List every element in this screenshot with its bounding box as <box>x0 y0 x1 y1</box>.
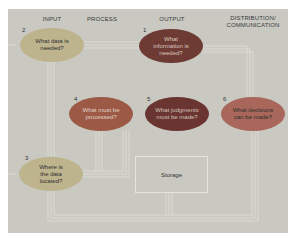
header-process: PROCESS <box>84 16 120 23</box>
node-what-data-needed: What data is needed? <box>20 28 84 62</box>
node-number-5: 5 <box>147 96 150 102</box>
header-distribution: DISTRIBUTION/ COMMUNICATION <box>218 15 288 29</box>
header-distribution-line2: COMMUNICATION <box>218 22 288 29</box>
header-input: INPUT <box>38 16 66 23</box>
node-number-2: 2 <box>22 27 25 33</box>
node-number-6: 6 <box>223 96 226 102</box>
node-what-judgments: What judgments must be made? <box>145 97 209 131</box>
header-output: OUTPUT <box>156 16 188 23</box>
node-what-decisions: What decisions can be made? <box>221 97 285 131</box>
node-text: What must be processed? <box>82 107 120 121</box>
node-text: What data is needed? <box>30 38 74 52</box>
node-text: Where is the data located? <box>36 164 66 185</box>
node-text: What information is needed? <box>153 36 189 57</box>
node-text: What judgments must be made? <box>153 107 201 121</box>
node-where-data-located: Where is the data located? <box>19 157 83 191</box>
storage-box: Storage <box>135 156 208 193</box>
node-what-information-needed: What information is needed? <box>139 29 203 63</box>
storage-label: Storage <box>161 172 182 178</box>
header-distribution-line1: DISTRIBUTION/ <box>218 15 288 22</box>
node-number-3: 3 <box>25 155 28 161</box>
node-what-processed: What must be processed? <box>69 97 133 131</box>
node-number-4: 4 <box>74 96 77 102</box>
node-number-1: 1 <box>143 27 146 33</box>
node-text: What decisions can be made? <box>230 107 276 121</box>
